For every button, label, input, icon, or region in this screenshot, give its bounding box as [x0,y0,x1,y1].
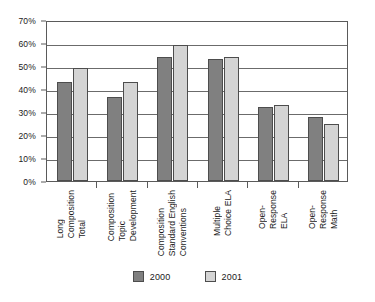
bar-2001-4[interactable] [224,57,239,181]
bar-2001-3[interactable] [173,45,188,181]
bar-2001-6[interactable] [324,124,339,182]
x-axis-label-line: Math [329,190,339,229]
x-axis-tick-mark [298,182,299,188]
x-axis-tick-mark [147,182,148,188]
x-axis-label-line: Standard English [167,190,177,256]
bar-group [198,22,248,181]
x-axis-label-line: Open- [307,190,317,229]
bar-group [97,22,147,181]
legend-swatch-icon [133,271,144,282]
x-axis-label-line: Total [77,190,87,238]
bar-2000-1[interactable] [57,82,72,181]
x-axis-tick-mark [96,182,97,188]
x-axis-label-line: Open- [257,190,267,229]
x-axis: LongCompositionTotalCompositionTopicDeve… [46,182,348,262]
legend-label: 2001 [222,272,243,282]
x-axis-label-line: Choice ELA [223,190,233,236]
bar-2000-4[interactable] [208,59,223,181]
x-axis-label-line: Response [268,190,278,229]
bar-chart: 0%10%20%30%40%50%60%70% LongCompositionT… [0,0,375,302]
x-axis-category-label: Open-ResponseMath [293,190,353,229]
bars-layer [47,22,347,181]
y-axis-tick-label: 70% [18,16,36,26]
y-axis-tick-label: 50% [18,62,36,72]
bar-group [148,22,198,181]
legend-item-2001[interactable]: 2001 [205,271,243,282]
legend-swatch-icon [205,271,216,282]
plot-area [46,21,348,182]
bar-2000-2[interactable] [107,97,122,181]
x-axis-tick-mark [197,182,198,188]
bar-2000-3[interactable] [157,57,172,181]
x-axis-label-line: Composition [106,190,116,241]
x-axis-label-line: Conventions [178,190,188,256]
y-axis-tick-label: 0% [23,177,36,187]
y-axis-tick-label: 20% [18,131,36,141]
y-axis-tick-label: 10% [18,154,36,164]
bar-2000-5[interactable] [258,107,273,181]
chart-legend: 20002001 [0,271,375,282]
y-axis-tick-label: 30% [18,108,36,118]
x-axis-label-line: Composition [66,190,76,238]
x-axis-label-line: Multiple [212,190,222,236]
bar-2001-5[interactable] [274,105,289,181]
bar-group [299,22,349,181]
x-axis-tick-mark [247,182,248,188]
y-axis-tick-label: 40% [18,85,36,95]
x-axis-label-line: Topic [117,190,127,241]
bar-2001-1[interactable] [73,68,88,181]
bar-group [47,22,97,181]
y-axis: 0%10%20%30%40%50%60%70% [0,21,42,182]
x-axis-label-line: Composition [156,190,166,256]
bar-2000-6[interactable] [308,117,323,181]
legend-item-2000[interactable]: 2000 [133,271,171,282]
x-axis-label-line: Long [55,190,65,238]
legend-label: 2000 [150,272,171,282]
y-axis-tick-label: 60% [18,39,36,49]
bar-group [248,22,298,181]
x-axis-label-line: Development [128,190,138,241]
x-axis-label-line: ELA [279,190,289,229]
x-axis-label-line: Response [318,190,328,229]
bar-2001-2[interactable] [123,82,138,181]
